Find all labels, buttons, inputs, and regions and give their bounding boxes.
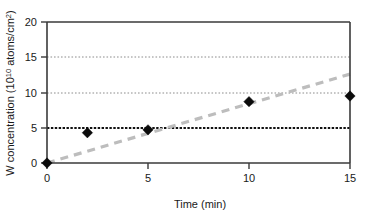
y-tick-labels: 20 15 10 5 0 <box>25 16 37 169</box>
y-tick-label-20: 20 <box>25 16 37 28</box>
y-axis-title: W concentration (1010 atoms/cm2) <box>4 10 17 175</box>
y-tick-label-10: 10 <box>25 87 37 99</box>
y-tick-label-0: 0 <box>31 157 37 169</box>
x-tick-label-5: 5 <box>145 172 151 184</box>
y-tick-label-15: 15 <box>25 51 37 63</box>
y-axis-title-suffix: atoms/cm <box>4 18 16 69</box>
chart-figure: 20 15 10 5 0 0 5 10 15 Time (min) W conc… <box>0 0 368 222</box>
x-tick-label-0: 0 <box>44 172 50 184</box>
x-tick-marks <box>47 163 350 169</box>
y-axis-title-prefix: W concentration (10 <box>4 77 16 175</box>
y-axis-title-close: ) <box>4 10 16 14</box>
y-tick-label-5: 5 <box>31 122 37 134</box>
x-axis-title: Time (min) <box>174 198 226 210</box>
x-tick-label-15: 15 <box>344 172 356 184</box>
y-axis-title-exponent: 10 <box>4 69 13 77</box>
y-tick-marks <box>41 22 47 163</box>
x-tick-labels: 0 5 10 15 <box>44 172 356 184</box>
x-tick-label-10: 10 <box>243 172 255 184</box>
chart-plot-area: 20 15 10 5 0 0 5 10 15 Time (min) W conc… <box>0 0 368 222</box>
